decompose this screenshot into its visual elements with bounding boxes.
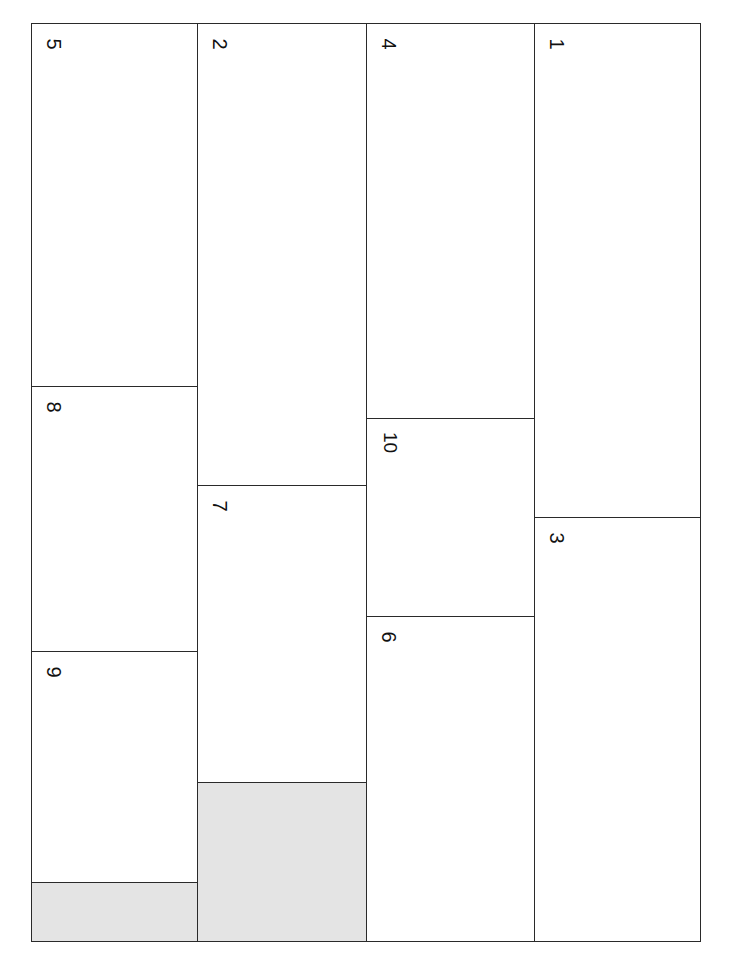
panel-4: 4 — [366, 23, 535, 419]
panel-number: 10 — [381, 428, 400, 458]
panel-10: 10 — [366, 418, 535, 617]
panel-number: 3 — [547, 526, 567, 550]
panel-8: 8 — [31, 386, 198, 652]
panel-number: 7 — [210, 494, 230, 518]
panel-number: 4 — [379, 32, 399, 56]
panel-1: 1 — [534, 23, 701, 518]
panel-2: 2 — [197, 23, 367, 486]
panel-number: 1 — [547, 32, 567, 56]
panel-number: 6 — [379, 625, 399, 649]
panel-number: 8 — [44, 395, 64, 419]
panel-9: 9 — [31, 651, 198, 883]
shaded-panel-col2 — [197, 782, 367, 942]
panel-6: 6 — [366, 616, 535, 942]
panel-5: 5 — [31, 23, 198, 387]
panel-3: 3 — [534, 517, 701, 942]
shaded-panel-col1 — [31, 882, 198, 942]
panel-number: 9 — [44, 660, 64, 684]
panel-number: 2 — [210, 32, 230, 56]
panel-7: 7 — [197, 485, 367, 783]
panel-number: 5 — [44, 32, 64, 56]
